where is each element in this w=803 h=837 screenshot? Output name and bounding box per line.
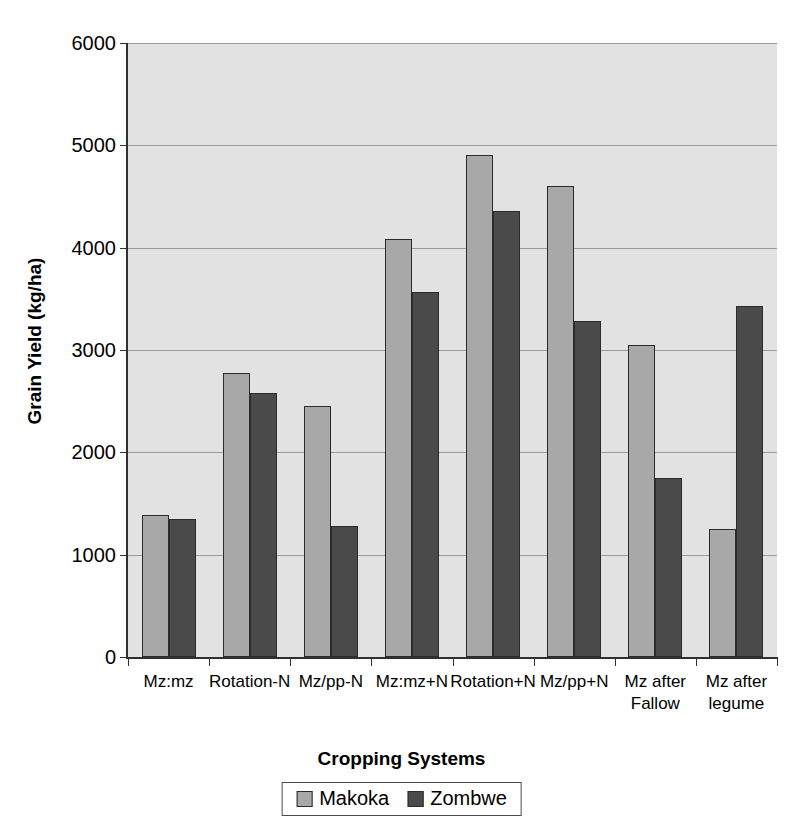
x-axis-tick [696,657,697,666]
legend-swatch-zombwe [407,791,423,807]
y-axis-tick [120,145,128,146]
y-axis-tick [120,657,128,658]
y-axis-tick [120,248,128,249]
bar-makoka [142,515,169,657]
x-axis-tick [777,657,778,666]
y-axis-tick-label: 2000 [72,441,117,464]
bar-group [385,43,439,657]
y-axis-tick [120,555,128,556]
y-axis-tick [120,350,128,351]
bar-zombwe [250,393,277,657]
bar-group [223,43,277,657]
legend-label: Makoka [319,787,389,810]
bar-chart-figure: Grain Yield (kg/ha) 01000200030004000500… [0,0,803,837]
y-axis-tick-label: 6000 [72,32,117,55]
x-axis-tick [615,657,616,666]
x-axis-tick [290,657,291,666]
bar-zombwe [331,526,358,657]
y-axis-tick [120,43,128,44]
bar-group [547,43,601,657]
x-axis-tick [128,657,129,666]
y-axis-title: Grain Yield (kg/ha) [24,211,46,471]
legend-item: Zombwe [407,787,507,810]
legend-swatch-makoka [296,791,312,807]
bar-makoka [466,155,493,657]
plot-area: 0100020003000400050006000Mz:mzRotation-N… [126,43,777,659]
bar-zombwe [574,321,601,657]
bar-makoka [385,239,412,657]
x-axis-tick [534,657,535,666]
bar-group [304,43,358,657]
bar-group [628,43,682,657]
x-axis-title: Cropping Systems [0,748,803,770]
x-axis-tick [453,657,454,666]
bar-zombwe [736,306,763,657]
y-axis-tick-label: 1000 [72,543,117,566]
y-axis-tick-label: 5000 [72,134,117,157]
bar-makoka [223,373,250,657]
x-axis-tick-label: Mz after legume [676,671,796,715]
x-axis-tick [371,657,372,666]
bar-zombwe [412,292,439,657]
y-axis-tick-label: 0 [105,646,116,669]
bar-makoka [709,529,736,657]
chart-legend: MakokaZombwe [281,782,522,816]
bar-zombwe [169,519,196,657]
y-axis-tick-label: 4000 [72,236,117,259]
legend-label: Zombwe [430,787,507,810]
legend-item: Makoka [296,787,389,810]
x-axis-tick [209,657,210,666]
y-axis-tick [120,452,128,453]
y-axis-tick-label: 3000 [72,339,117,362]
bar-makoka [628,345,655,657]
bar-group [142,43,196,657]
bar-makoka [304,406,331,657]
bar-group [709,43,763,657]
bar-makoka [547,186,574,657]
bar-group [466,43,520,657]
bar-zombwe [493,211,520,657]
bar-zombwe [655,478,682,657]
